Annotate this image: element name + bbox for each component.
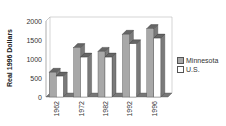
x-tick-label: 1996 bbox=[151, 101, 158, 117]
bar-side bbox=[63, 72, 67, 97]
x-tick-label: 1982 bbox=[102, 101, 109, 117]
bar-front bbox=[98, 51, 105, 97]
bar-us-1996 bbox=[154, 34, 165, 97]
bar-side bbox=[136, 40, 140, 97]
bar-side bbox=[161, 34, 165, 97]
bar-us-1992 bbox=[129, 40, 140, 97]
bar-front bbox=[74, 48, 81, 97]
x-tick-label: 1992 bbox=[126, 101, 133, 117]
y-tick-label: 1000 bbox=[26, 56, 42, 63]
y-axis-top bbox=[46, 17, 50, 21]
y-tick-label: 2000 bbox=[26, 18, 42, 25]
legend: Minnesota U.S. bbox=[177, 56, 218, 74]
bar-us-1982 bbox=[105, 53, 116, 97]
x-tick-label: 1962 bbox=[53, 101, 60, 117]
bar-side bbox=[112, 53, 116, 97]
legend-swatch-us bbox=[177, 66, 184, 73]
bar-front bbox=[81, 57, 88, 97]
bar-front bbox=[129, 44, 136, 97]
bar-front bbox=[56, 76, 63, 97]
legend-label-minnesota: Minnesota bbox=[186, 56, 218, 65]
bar-front bbox=[147, 29, 154, 97]
x-tick-label: 1972 bbox=[78, 101, 85, 117]
bar-front bbox=[105, 57, 112, 97]
legend-label-us: U.S. bbox=[186, 65, 200, 74]
bar-us-1962 bbox=[56, 72, 67, 97]
bar-front bbox=[122, 34, 129, 97]
bar-us-1972 bbox=[81, 53, 92, 97]
y-tick-label: 1500 bbox=[26, 37, 42, 44]
y-tick-label: 0 bbox=[38, 94, 42, 101]
bar-side bbox=[88, 53, 92, 97]
y-axis-label: Real 1996 Dollars bbox=[6, 29, 13, 87]
bar-front bbox=[154, 38, 161, 97]
y-tick-label: 500 bbox=[30, 75, 42, 82]
legend-swatch-minnesota bbox=[177, 57, 184, 64]
legend-item-minnesota: Minnesota bbox=[177, 56, 218, 65]
legend-item-us: U.S. bbox=[177, 65, 218, 74]
bar-front bbox=[49, 72, 56, 97]
